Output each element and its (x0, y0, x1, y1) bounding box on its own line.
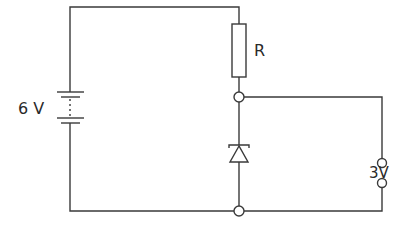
wire-left-bottom (70, 123, 234, 211)
resistor-label: R (254, 43, 265, 59)
output-voltage-label: 3V (369, 166, 389, 181)
wire-to-output-top (244, 97, 382, 158)
node-top (234, 92, 244, 102)
node-bottom (234, 206, 244, 216)
resistor-symbol (232, 24, 246, 77)
circuit-drawing (0, 0, 409, 227)
diode-symbol (229, 145, 249, 162)
wire-left-top (70, 7, 239, 92)
circuit-diagram: 6 V R 3V (0, 0, 409, 227)
wire-to-output-bottom (244, 188, 382, 211)
battery-voltage-label: 6 V (18, 101, 44, 117)
battery-symbol (57, 92, 84, 123)
